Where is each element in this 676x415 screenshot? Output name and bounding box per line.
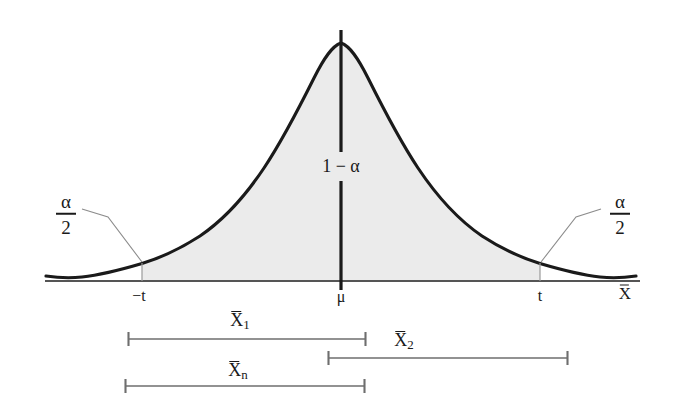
axis-label-x-bar: X	[619, 285, 631, 302]
axis-label-overline	[620, 284, 629, 285]
interval-3-subscript: n	[241, 367, 247, 382]
interval-1-symbol: X	[230, 310, 243, 330]
leader-line-left-tail	[82, 209, 142, 262]
tick-label-t: t	[538, 288, 542, 304]
right-tail-alpha-numerator: α	[610, 192, 630, 213]
right-tail-alpha-denominator: 2	[610, 214, 630, 236]
interval-bar-1	[128, 332, 366, 346]
interval-label-3: Xn	[228, 361, 247, 379]
axis-label-text: X	[619, 284, 631, 303]
interval-2-subscript: 2	[407, 337, 413, 352]
interval-label-2: X2	[394, 331, 413, 349]
tick-label-negative-t: −t	[132, 288, 145, 304]
left-tail-alpha-denominator: 2	[56, 214, 76, 236]
interval-3-symbol: X	[228, 360, 241, 380]
t-distribution-confidence-interval-figure: α 2 α 2 1 − α −t μ t X X1 X2 Xn	[0, 0, 676, 415]
leader-line-right-tail	[541, 209, 601, 262]
interval-bar-2	[328, 351, 568, 365]
distribution-plot-svg	[0, 0, 676, 415]
left-tail-alpha-over-two: α 2	[56, 192, 76, 237]
left-tail-alpha-numerator: α	[56, 192, 76, 213]
right-tail-alpha-over-two: α 2	[610, 192, 630, 237]
interval-1-subscript: 1	[243, 317, 249, 332]
interval-2-symbol: X	[394, 330, 407, 350]
interval-label-1: X1	[230, 311, 249, 329]
tick-label-mu: μ	[337, 289, 346, 305]
interval-1-overline	[231, 311, 241, 312]
interval-3-overline	[229, 361, 239, 362]
interval-2-overline	[395, 331, 405, 332]
confidence-level-label: 1 − α	[322, 157, 360, 175]
